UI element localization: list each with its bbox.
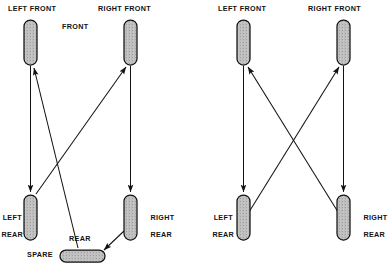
- arrow-spare-to-left-front: [34, 68, 78, 248]
- label-left-front-panel1: LEFT FRONT: [8, 5, 56, 14]
- label-right-rear-line2-panel1: REAR: [150, 230, 172, 239]
- label-right-front-panel1: RIGHT FRONT: [98, 5, 151, 14]
- tire-right-rear: [124, 195, 137, 240]
- label-left-front-panel2: LEFT FRONT: [218, 5, 266, 14]
- arrow-right-rear-to-spare: [104, 231, 124, 250]
- tire-right-front: [337, 20, 350, 65]
- label-right-rear-line1-panel2: RIGHT: [363, 213, 387, 222]
- label-left-rear-line1-panel1: LEFT: [3, 213, 22, 222]
- panel-four-tire: [237, 20, 350, 240]
- label-spare: SPARE: [27, 251, 53, 260]
- label-left-rear-line2-panel2: REAR: [212, 230, 234, 239]
- tire-spare: [60, 250, 105, 262]
- rotation-arrows-four-tire: [244, 66, 344, 212]
- label-left-rear-panel1: LEFT REAR: [0, 206, 22, 248]
- tire-right-rear: [337, 195, 350, 240]
- label-rear-panel1: REAR: [69, 235, 91, 244]
- tire-left-front: [237, 20, 250, 65]
- tire-left-rear: [24, 195, 37, 240]
- label-left-rear-panel2: LEFT REAR: [203, 206, 233, 248]
- tire-right-front: [124, 20, 137, 65]
- tire-left-rear: [237, 195, 250, 240]
- label-left-rear-line2-panel1: REAR: [1, 230, 23, 239]
- label-right-rear-panel2: RIGHT REAR: [354, 206, 388, 248]
- label-left-rear-line1-panel2: LEFT: [214, 213, 233, 222]
- tire-left-front: [24, 20, 37, 65]
- label-right-rear-panel1: RIGHT REAR: [141, 206, 175, 248]
- arrow-right-rear-to-left-front: [248, 67, 338, 212]
- label-right-front-panel2: RIGHT FRONT: [308, 5, 361, 14]
- arrow-left-rear-to-right-front: [249, 67, 339, 212]
- panel-five-tire: [24, 20, 137, 262]
- label-front-center: FRONT: [62, 23, 89, 32]
- rotation-arrows-five-tire: [31, 66, 131, 250]
- label-right-rear-line1-panel1: RIGHT: [150, 213, 174, 222]
- label-right-rear-line2-panel2: REAR: [363, 230, 385, 239]
